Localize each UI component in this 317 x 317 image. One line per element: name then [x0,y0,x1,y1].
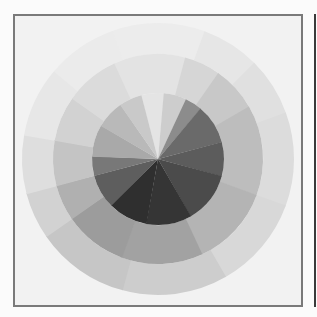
outer-ring-segment [22,134,57,194]
edge-line [314,14,316,307]
inner-disk [92,93,224,225]
color-wheel [15,16,301,305]
image-frame [13,14,303,307]
